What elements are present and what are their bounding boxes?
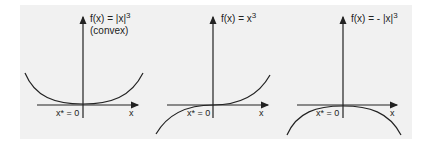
- graph-cubed: f(x) = x3 x* = 0 x: [156, 11, 270, 134]
- minimizer-label: x* = 0: [56, 108, 79, 118]
- minimizer-label: x* = 0: [316, 108, 339, 118]
- subtitle-label: (convex): [90, 25, 128, 36]
- x-axis-label: x: [259, 108, 264, 118]
- x-axis-label: x: [390, 108, 395, 118]
- figure-canvas: f(x) = |x|3 (convex) x* = 0 x f(x) = x3 …: [0, 0, 425, 147]
- minimizer-label: x* = 0: [187, 108, 210, 118]
- graph-neg-abs-cubed: f(x) = - |x|3 x* = 0 x: [287, 11, 401, 135]
- x-axis-label: x: [129, 108, 134, 118]
- curve: [287, 106, 401, 135]
- function-label: f(x) = - |x|3: [351, 11, 398, 24]
- function-label: f(x) = x3: [221, 11, 257, 24]
- curve: [25, 73, 143, 104]
- function-label: f(x) = |x|3: [90, 11, 131, 24]
- graph-abs-cubed: f(x) = |x|3 (convex) x* = 0 x: [25, 11, 143, 118]
